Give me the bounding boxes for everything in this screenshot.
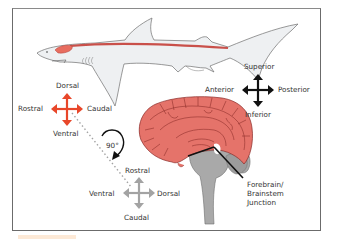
- rotation-angle-label: 90°: [106, 142, 119, 149]
- human-axes-arrows: [242, 74, 274, 107]
- callout-line-3: Junction: [247, 199, 276, 206]
- shark-axis-caudal-label: Caudal: [87, 105, 112, 112]
- human-brain-illustration: [139, 97, 252, 224]
- rotation-guide-line: [72, 113, 132, 188]
- human-axis-posterior-label: Posterior: [278, 86, 310, 93]
- shark-axis-dorsal-label: Dorsal: [56, 82, 79, 89]
- human-axis-inferior-label: Inferior: [245, 111, 271, 118]
- shark-axis-rostral-label: Rostral: [18, 105, 43, 112]
- callout-line-2: Brainstem: [247, 190, 284, 197]
- diagram-artwork: [0, 0, 337, 243]
- shark-axes-arrows: [51, 93, 83, 126]
- human-axis-anterior-label: Anterior: [205, 86, 234, 93]
- callout-line-1: Forebrain/: [247, 181, 283, 188]
- rotated-axis-ventral-label: Ventral: [89, 190, 115, 197]
- rotated-axis-caudal-label: Caudal: [124, 214, 149, 221]
- shark-axis-ventral-label: Ventral: [53, 130, 79, 137]
- shark-eye: [46, 51, 48, 53]
- rotated-axis-dorsal-label: Dorsal: [157, 190, 180, 197]
- rotated-axis-rostral-label: Rostral: [125, 167, 150, 174]
- bottom-color-strip: [18, 235, 76, 239]
- human-axis-superior-label: Superior: [244, 63, 274, 70]
